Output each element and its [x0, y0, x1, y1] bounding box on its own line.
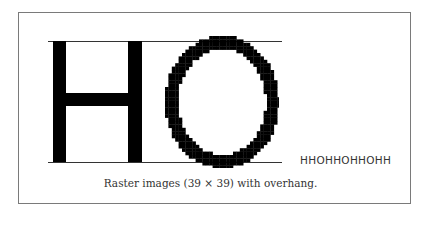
- sample-text: HHOHHOHHOHH: [300, 154, 391, 166]
- raster-glyph-h: [53, 41, 142, 162]
- raster-glyph-o: [165, 36, 279, 168]
- figure-caption: Raster images (39 × 39) with overhang.: [0, 177, 421, 189]
